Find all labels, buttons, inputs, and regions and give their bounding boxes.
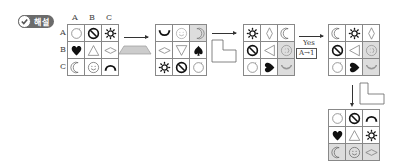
l-shape-icon — [359, 82, 385, 105]
heart-right-icon — [263, 61, 276, 74]
sun-icon — [104, 27, 117, 40]
moon-left-icon — [331, 27, 344, 40]
col-label-b: B — [89, 13, 95, 22]
diamond-h-icon — [365, 146, 378, 159]
sun-icon — [158, 61, 171, 74]
grid-cell — [244, 25, 260, 41]
moon-left-icon — [70, 61, 83, 74]
grid-2 — [155, 24, 207, 76]
grid-cell — [244, 42, 260, 58]
row-label-b: B — [60, 45, 66, 54]
grid-cell — [346, 127, 362, 143]
circle-open-icon — [70, 27, 83, 40]
moon-left-icon — [331, 146, 344, 159]
grid-cell — [363, 144, 379, 160]
smiley-icon — [87, 61, 100, 74]
diamond-v-icon — [263, 27, 276, 40]
grid-cell — [102, 25, 118, 41]
sun-icon — [365, 129, 378, 142]
badge-label: 해설 — [34, 16, 50, 27]
arrow-right-icon — [212, 33, 236, 34]
smile-moon-icon — [365, 61, 378, 74]
grid-cell — [329, 144, 345, 160]
grid-cell — [346, 42, 362, 58]
grid-cell — [363, 110, 379, 126]
grid-cell — [190, 59, 206, 75]
grid-cell — [346, 25, 362, 41]
heart-icon — [331, 129, 344, 142]
circle-open-icon — [331, 61, 344, 74]
spade-icon — [192, 44, 205, 57]
triangle-left-icon — [348, 44, 361, 57]
triangle-left-icon — [263, 44, 276, 57]
smiley-light-icon — [175, 27, 188, 40]
grid-cell — [85, 42, 101, 58]
no-sign-icon — [246, 44, 259, 57]
circle-open-icon — [331, 112, 344, 125]
grid-cell — [329, 110, 345, 126]
grid-cell — [68, 42, 84, 58]
grid-cell — [346, 144, 362, 160]
arrow-down-icon — [352, 85, 353, 105]
no-sign-icon — [87, 27, 100, 40]
grid-cell — [244, 59, 260, 75]
grid-cell — [156, 25, 172, 41]
grid-cell — [190, 42, 206, 58]
grid-cell — [85, 59, 101, 75]
arrow-right-icon — [299, 36, 323, 37]
check-circle-icon — [18, 15, 31, 28]
grid-5 — [328, 109, 380, 161]
grid-cell — [102, 42, 118, 58]
smiley-side-icon — [365, 44, 378, 57]
grid-cell — [278, 25, 294, 41]
grid-cell — [68, 25, 84, 41]
smile-moon-icon — [280, 61, 293, 74]
grid-cell — [278, 59, 294, 75]
heart-right-icon — [348, 61, 361, 74]
grid-1 — [67, 24, 119, 76]
grid-cell — [173, 59, 189, 75]
sun-icon — [246, 27, 259, 40]
diamond-v-icon — [365, 27, 378, 40]
moon-left-icon — [280, 27, 293, 40]
row-label-a: A — [60, 28, 66, 37]
grid-cell — [363, 59, 379, 75]
no-sign-icon — [331, 44, 344, 57]
grid-cell — [363, 25, 379, 41]
col-label-a: A — [72, 13, 78, 22]
yes-label: Yes — [303, 39, 315, 47]
grid-cell — [363, 127, 379, 143]
sun-icon — [348, 27, 361, 40]
smiley-icon — [348, 146, 361, 159]
diamond-h-icon — [104, 44, 117, 57]
trapezoid-icon — [118, 45, 152, 55]
grid-cell — [329, 127, 345, 143]
grid-cell — [156, 42, 172, 58]
no-sign-icon — [348, 112, 361, 125]
grid-cell — [85, 25, 101, 41]
grid-cell — [261, 42, 277, 58]
grid-cell — [68, 59, 84, 75]
grid-cell — [363, 42, 379, 58]
grid-cell — [190, 25, 206, 41]
circle-open-icon — [246, 61, 259, 74]
col-label-c: C — [106, 13, 112, 22]
grid-cell — [329, 59, 345, 75]
diamond-h-icon — [158, 44, 171, 57]
moon-right-icon — [192, 27, 205, 40]
mapping-box: A→1 — [296, 48, 317, 59]
grid-cell — [346, 59, 362, 75]
grid-cell — [156, 59, 172, 75]
triangle-up-icon — [87, 44, 100, 57]
arrow-right-icon — [124, 37, 148, 38]
l-shape-icon — [211, 39, 237, 63]
arch-icon — [365, 112, 378, 125]
smiley-side-icon — [280, 44, 293, 57]
grid-cell — [278, 42, 294, 58]
circle-open-icon — [192, 61, 205, 74]
grid-cell — [173, 25, 189, 41]
grid-cell — [173, 42, 189, 58]
arch-icon — [104, 61, 117, 74]
grid-cell — [261, 59, 277, 75]
grid-4 — [328, 24, 380, 76]
